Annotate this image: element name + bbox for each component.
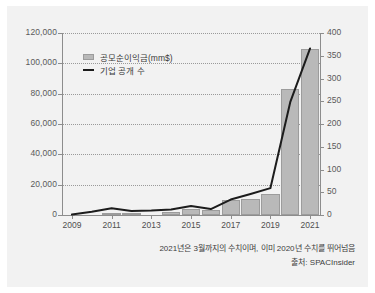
chart-figure: 020,00040,00060,00080,000100,000120,000 …: [7, 6, 368, 287]
chart-footnote: 2021년은 3월까지의 수치이며, 이미 2020년 수치를 뛰어넘음: [7, 242, 355, 253]
y-axis-right-tick-label: 100: [327, 164, 357, 174]
x-axis-tick-mark: [270, 215, 271, 219]
y-axis-left-tick-label: 60,000: [9, 118, 57, 128]
y-axis-right-tick-mark: [320, 192, 324, 193]
x-axis-tick-label: 2021: [290, 220, 330, 230]
x-axis-tick-label: 2013: [131, 220, 171, 230]
line-swatch-icon: [83, 69, 94, 71]
legend-label-line: 기업 공개 수: [100, 64, 145, 76]
y-axis-left-tick-label: 120,000: [9, 27, 57, 37]
y-axis-right-tick-label: 350: [327, 50, 357, 60]
chart-source: 출처: SPACInsider: [7, 256, 355, 267]
legend-label-bar: 공모순이익금(mm$): [100, 51, 173, 63]
y-axis-right-tick-label: 0: [327, 209, 357, 219]
x-axis-tick-label: 2017: [211, 220, 251, 230]
x-axis-tick-mark: [310, 215, 311, 219]
x-axis-tick-mark: [72, 215, 73, 219]
y-axis-right-tick-mark: [320, 56, 324, 57]
y-axis-right-tick-mark: [320, 147, 324, 148]
y-axis-right-tick-mark: [320, 124, 324, 125]
y-axis-right-tick-label: 150: [327, 141, 357, 151]
y-axis-left-tick-label: 20,000: [9, 179, 57, 189]
y-axis-right-tick-label: 50: [327, 186, 357, 196]
y-axis-right-tick-mark: [320, 215, 324, 216]
legend-item-line: 기업 공개 수: [83, 63, 173, 76]
x-axis-tick-label: 2011: [92, 220, 132, 230]
x-axis-tick-mark: [231, 215, 232, 219]
y-axis-right-tick-mark: [320, 79, 324, 80]
y-axis-left-tick-label: 0: [9, 209, 57, 219]
y-axis-right-tick-mark: [320, 101, 324, 102]
x-axis-tick-mark: [112, 215, 113, 219]
chart-legend: 공모순이익금(mm$) 기업 공개 수: [83, 50, 173, 76]
y-axis-right-tick-label: 250: [327, 95, 357, 105]
y-axis-right-tick-label: 400: [327, 27, 357, 37]
y-axis-left-tick-label: 100,000: [9, 57, 57, 67]
y-axis-left-tick-mark: [58, 215, 62, 216]
x-axis-tick-mark: [191, 215, 192, 219]
legend-item-bar: 공모순이익금(mm$): [83, 50, 173, 63]
bar-swatch-icon: [83, 54, 94, 60]
y-axis-right-tick-label: 200: [327, 118, 357, 128]
y-axis-left-tick-label: 80,000: [9, 88, 57, 98]
x-axis-tick-label: 2009: [52, 220, 92, 230]
y-axis-right-tick-mark: [320, 170, 324, 171]
y-axis-left-tick-label: 40,000: [9, 148, 57, 158]
x-axis-tick-label: 2019: [250, 220, 290, 230]
x-axis-tick-mark: [151, 215, 152, 219]
y-axis-right-tick-mark: [320, 33, 324, 34]
x-axis-tick-label: 2015: [171, 220, 211, 230]
y-axis-right-tick-label: 300: [327, 73, 357, 83]
